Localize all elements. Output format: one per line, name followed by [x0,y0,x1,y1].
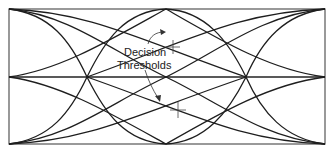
trace [166,77,325,144]
trace [166,77,325,144]
trace [166,9,325,77]
lower-threshold-marker [170,102,186,118]
trace [9,77,166,144]
lower-eye-traces [9,77,325,144]
trace [9,77,166,144]
trace [246,9,325,77]
annotation-line-2: Thresholds [117,59,172,71]
annotation-line-1: Decision [124,46,166,58]
trace [87,77,325,144]
trace [9,77,246,144]
trace [166,9,325,77]
lower-arrow-head-icon [155,95,161,102]
eye-diagram: Decision Thresholds [0,0,332,154]
upper-arrow-head-icon [160,29,166,35]
trace [246,77,325,144]
